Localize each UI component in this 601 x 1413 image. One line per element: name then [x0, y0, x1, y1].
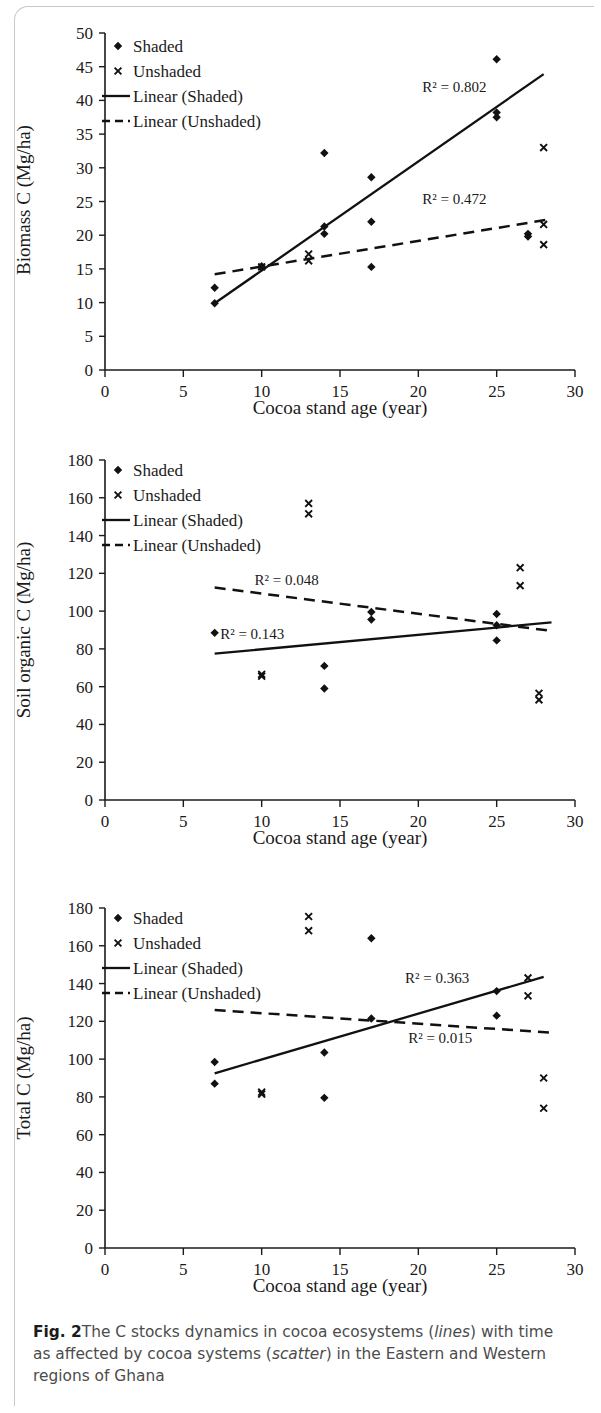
data-point-shaded [320, 149, 328, 157]
y-tick-label: 25 [76, 193, 93, 212]
y-tick-label: 180 [68, 899, 94, 918]
legend-diamond-icon [114, 914, 122, 922]
data-point-shaded [210, 629, 218, 637]
y-tick-label: 0 [85, 1239, 94, 1258]
data-point-shaded [367, 263, 375, 271]
x-tick-label: 25 [488, 812, 505, 831]
legend-label: Linear (Shaded) [133, 87, 243, 106]
legend-diamond-icon [114, 466, 122, 474]
data-point-shaded [210, 284, 218, 292]
y-tick-label: 15 [76, 260, 93, 279]
data-point-shaded [367, 934, 375, 942]
caption-emph-lines: lines [434, 1323, 470, 1341]
data-point-unshaded [305, 913, 312, 920]
x-tick-label: 30 [567, 812, 584, 831]
figure-label: Fig. 2 [33, 1323, 82, 1341]
x-axis-title: Cocoa stand age (year) [253, 827, 428, 849]
r2-label-unshaded: R² = 0.015 [408, 1030, 472, 1046]
legend-label: Linear (Shaded) [133, 959, 243, 978]
data-point-unshaded [540, 1105, 547, 1112]
legend-label: Unshaded [133, 62, 201, 81]
legend-label: Linear (Unshaded) [133, 536, 261, 555]
data-point-unshaded [305, 251, 312, 258]
y-tick-label: 0 [85, 791, 94, 810]
y-tick-label: 180 [68, 451, 94, 470]
caption-part-1: The C stocks dynamics in cocoa ecosystem… [82, 1323, 435, 1341]
plot-biomass-c: 05101520253035404550051015202530Cocoa st… [0, 0, 601, 432]
data-point-unshaded [305, 927, 312, 934]
y-tick-label: 80 [76, 640, 93, 659]
legend-x-icon [115, 68, 122, 75]
plot-total-c: 020406080100120140160180051015202530Coco… [0, 860, 601, 1308]
x-tick-label: 5 [179, 382, 188, 401]
plot-soil-organic-c: 020406080100120140160180051015202530Coco… [0, 432, 601, 860]
y-tick-label: 40 [76, 91, 93, 110]
y-axis-title: Biomass C (Mg/ha) [13, 125, 35, 275]
y-tick-label: 0 [85, 361, 94, 380]
y-axis-title: Total C (Mg/ha) [13, 1016, 35, 1139]
y-tick-label: 50 [76, 24, 93, 43]
legend-label: Shaded [133, 37, 184, 56]
y-tick-label: 60 [76, 678, 93, 697]
data-point-shaded [367, 173, 375, 181]
figure-caption: Fig. 2The C stocks dynamics in cocoa eco… [33, 1322, 573, 1388]
data-point-shaded [210, 1079, 218, 1087]
y-tick-label: 100 [68, 1050, 94, 1069]
fit-line-unshaded [215, 588, 552, 631]
legend-x-icon [115, 940, 122, 947]
y-tick-label: 140 [68, 527, 94, 546]
r2-label-shaded: R² = 0.363 [405, 970, 469, 986]
y-tick-label: 30 [76, 159, 93, 178]
x-tick-label: 0 [101, 382, 110, 401]
data-point-shaded [492, 987, 500, 995]
y-axis-title: Soil organic C (Mg/ha) [13, 542, 35, 718]
x-tick-label: 5 [179, 1260, 188, 1279]
chart-total-c: 020406080100120140160180051015202530Coco… [0, 860, 601, 1308]
chart-biomass-c: 05101520253035404550051015202530Cocoa st… [0, 0, 601, 432]
caption-emph-scatter: scatter [272, 1345, 326, 1363]
figure-page: 05101520253035404550051015202530Cocoa st… [0, 0, 601, 1413]
data-point-unshaded [305, 500, 312, 507]
data-point-shaded [367, 218, 375, 226]
y-tick-label: 60 [76, 1126, 93, 1145]
data-point-unshaded [525, 974, 532, 981]
legend-x-icon [115, 492, 122, 499]
data-point-unshaded [525, 992, 532, 999]
x-tick-label: 30 [567, 1260, 584, 1279]
data-point-shaded [492, 610, 500, 618]
y-tick-label: 160 [68, 937, 94, 956]
fit-line-unshaded [215, 1010, 552, 1033]
y-tick-label: 120 [68, 1012, 94, 1031]
x-axis-title: Cocoa stand age (year) [253, 397, 428, 419]
legend-label: Linear (Unshaded) [133, 112, 261, 131]
x-tick-label: 0 [101, 812, 110, 831]
x-tick-label: 25 [488, 382, 505, 401]
y-tick-label: 5 [85, 327, 94, 346]
y-tick-label: 35 [76, 125, 93, 144]
data-point-shaded [367, 615, 375, 623]
data-point-unshaded [517, 582, 524, 589]
y-tick-label: 20 [76, 753, 93, 772]
y-tick-label: 120 [68, 564, 94, 583]
x-axis-title: Cocoa stand age (year) [253, 1275, 428, 1297]
r2-label-unshaded: R² = 0.472 [422, 191, 486, 207]
data-point-unshaded [305, 510, 312, 517]
x-tick-label: 30 [567, 382, 584, 401]
legend-label: Unshaded [133, 934, 201, 953]
x-tick-label: 0 [101, 1260, 110, 1279]
r2-label-unshaded: R² = 0.048 [255, 572, 319, 588]
x-tick-label: 25 [488, 1260, 505, 1279]
y-tick-label: 45 [76, 58, 93, 77]
y-tick-label: 160 [68, 489, 94, 508]
data-point-shaded [210, 1058, 218, 1066]
r2-label-shaded: R² = 0.143 [220, 626, 284, 642]
legend-label: Linear (Shaded) [133, 511, 243, 530]
legend-label: Shaded [133, 461, 184, 480]
legend-label: Linear (Unshaded) [133, 984, 261, 1003]
data-point-shaded [367, 608, 375, 616]
data-point-shaded [492, 55, 500, 63]
y-tick-label: 20 [76, 1201, 93, 1220]
y-tick-label: 10 [76, 294, 93, 313]
r2-label-shaded: R² = 0.802 [422, 79, 486, 95]
data-point-shaded [320, 230, 328, 238]
